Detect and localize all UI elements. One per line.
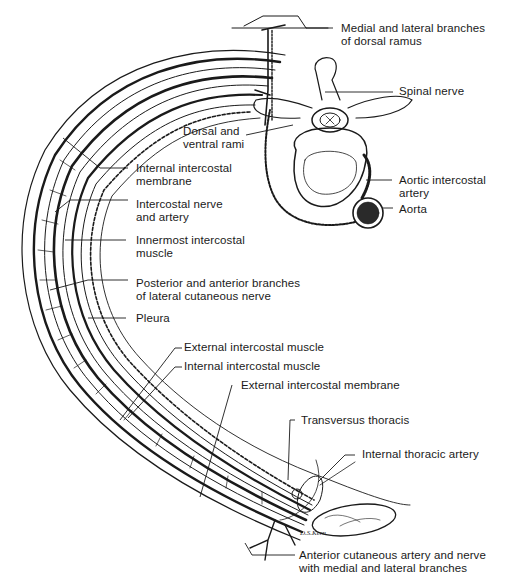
label-line: Aorta [399, 203, 427, 216]
label-external-intercostal-muscle: External intercostal muscle [184, 341, 324, 354]
label-aorta: Aorta [399, 203, 427, 216]
label-line: External intercostal muscle [184, 341, 324, 354]
label-aortic-intercostal-artery: Aortic intercostal artery [399, 174, 486, 200]
label-line: Pleura [136, 312, 170, 325]
label-intercostal-nerve-artery: Intercostal nerve and artery [136, 198, 223, 224]
label-external-intercostal-membrane: External intercostal membrane [241, 379, 400, 392]
label-line: Spinal nerve [399, 85, 464, 98]
label-line: artery [399, 187, 486, 200]
label-line: Innermost intercostal [136, 234, 245, 247]
anatomy-diagram: Medial and lateral branches of dorsal ra… [0, 0, 506, 585]
label-line: Internal intercostal muscle [184, 360, 320, 373]
label-innermost-intercostal-muscle: Innermost intercostal muscle [136, 234, 245, 260]
label-line: Transversus thoracis [301, 414, 409, 427]
label-line: Aortic intercostal [399, 174, 486, 187]
artist-signature: D.S.Kern [300, 529, 326, 537]
label-internal-thoracic-artery: Internal thoracic artery [362, 448, 479, 461]
label-dorsal-ventral-rami: Dorsal and ventral rami [183, 125, 244, 151]
label-line: Internal intercostal [136, 162, 232, 175]
label-line: Anterior cutaneous artery and nerve [299, 549, 486, 562]
label-line: Internal thoracic artery [362, 448, 479, 461]
label-spinal-nerve: Spinal nerve [399, 85, 464, 98]
label-pleura: Pleura [136, 312, 170, 325]
label-line: Dorsal and [183, 125, 244, 138]
label-line: membrane [136, 175, 232, 188]
label-line: Medial and lateral branches [341, 22, 485, 35]
label-line: of dorsal ramus [341, 35, 485, 48]
label-internal-intercostal-muscle: Internal intercostal muscle [184, 360, 320, 373]
label-line: muscle [136, 247, 245, 260]
label-line: ventral rami [183, 138, 244, 151]
label-anterior-cutaneous: Anterior cutaneous artery and nerve with… [299, 549, 486, 575]
label-line: with medial and lateral branches [299, 562, 486, 575]
label-line: and artery [136, 211, 223, 224]
label-line: External intercostal membrane [241, 379, 400, 392]
label-lateral-cutaneous-branches: Posterior and anterior branches of later… [136, 277, 300, 303]
label-line: Posterior and anterior branches [136, 277, 300, 290]
label-medial-lateral-branches: Medial and lateral branches of dorsal ra… [341, 22, 485, 48]
label-transversus-thoracis: Transversus thoracis [301, 414, 409, 427]
label-line: of lateral cutaneous nerve [136, 290, 300, 303]
label-line: Intercostal nerve [136, 198, 223, 211]
label-internal-intercostal-membrane: Internal intercostal membrane [136, 162, 232, 188]
